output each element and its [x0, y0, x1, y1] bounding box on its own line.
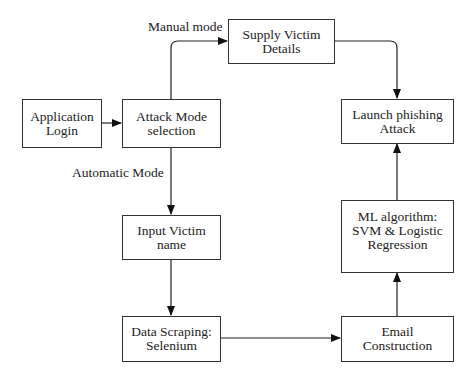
node-input-victim-name: Input Victim name: [122, 215, 221, 260]
node-label: Data Scraping: Selenium: [131, 325, 212, 353]
node-attack-mode-selection: Attack Mode selection: [122, 99, 221, 148]
node-ml-algorithm: ML algorithm: SVM & Logistic Regression: [341, 200, 454, 273]
edge-label-automatic-mode: Automatic Mode: [72, 165, 164, 181]
node-application-login: Application Login: [22, 99, 102, 148]
node-label: Email Construction: [363, 325, 433, 353]
edge-attack-mode-to-supply-victim: [171, 41, 227, 99]
node-supply-victim-details: Supply Victim Details: [228, 19, 335, 64]
edge-supply-victim-to-launch-attack: [334, 41, 397, 98]
node-email-construction: Email Construction: [341, 316, 454, 362]
node-label: Supply Victim Details: [242, 28, 320, 56]
node-label: ML algorithm: SVM & Logistic Regression: [352, 210, 443, 252]
node-label: Attack Mode selection: [136, 110, 207, 138]
node-data-scraping-selenium: Data Scraping: Selenium: [122, 316, 221, 362]
node-label: Application Login: [30, 110, 94, 138]
node-label: Launch phishing Attack: [352, 108, 442, 136]
edge-label-manual-mode: Manual mode: [148, 19, 223, 35]
node-label: Input Victim name: [137, 224, 205, 252]
node-launch-phishing-attack: Launch phishing Attack: [341, 99, 454, 144]
